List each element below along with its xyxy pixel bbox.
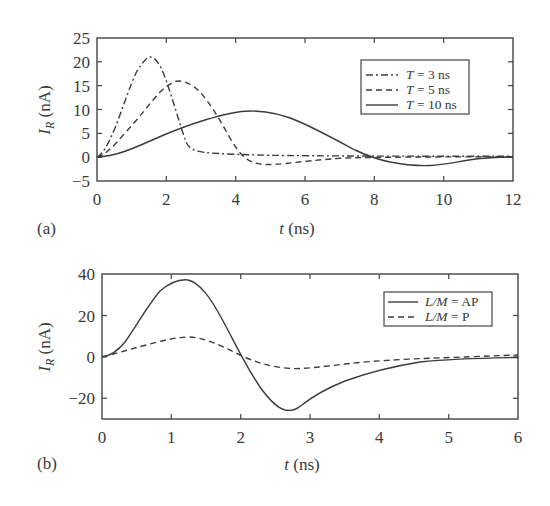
- panel-b: 40 20 0 −20 0 1 2 3 4 5 6 t (ns) IR (nA)…: [35, 265, 522, 474]
- y-axis-label-b: IR (nA): [35, 322, 57, 372]
- legend-b: L/M = AP L/M = P: [384, 292, 492, 326]
- x-tick-label: 4: [375, 428, 384, 447]
- legend-entry: T = 10 ns: [406, 97, 457, 112]
- y-tick-labels-b: 40 20 0 −20: [68, 265, 95, 408]
- x-tick-label: 2: [162, 190, 171, 209]
- legend-entry: L/M = AP: [424, 294, 478, 309]
- y-axis-label-a: IR (nA): [35, 85, 57, 135]
- x-tick-label: 5: [444, 428, 453, 447]
- x-tick-label: 3: [306, 428, 315, 447]
- figure: 25 20 15 10 5 0 −5 0 2 4 6 8 10 12 t (ns…: [0, 0, 550, 506]
- x-tick-label: 12: [505, 190, 522, 209]
- y-tick-label: 40: [78, 265, 95, 284]
- x-tick-label: 6: [514, 428, 523, 447]
- panel-a: 25 20 15 10 5 0 −5 0 2 4 6 8 10 12 t (ns…: [35, 29, 522, 238]
- y-tick-label: 5: [82, 124, 91, 143]
- y-tick-label: 10: [73, 101, 90, 120]
- x-axis-label-b: t (ns): [284, 455, 319, 474]
- series-p: [102, 337, 518, 369]
- x-tick-label: 0: [93, 190, 102, 209]
- y-tick-label: 0: [87, 348, 96, 367]
- legend-entry: T = 5 ns: [406, 82, 450, 97]
- panel-label-b: (b): [37, 454, 57, 473]
- y-tick-label: −5: [72, 172, 90, 191]
- y-tick-label: 25: [73, 29, 90, 48]
- panel-label-a: (a): [37, 219, 56, 238]
- x-tick-label: 6: [301, 190, 310, 209]
- x-axis-label-a: t (ns): [279, 219, 314, 238]
- x-tick-labels-b: 0 1 2 3 4 5 6: [98, 428, 523, 447]
- x-tick-label: 8: [370, 190, 379, 209]
- x-tick-label: 0: [98, 428, 107, 447]
- x-tick-label: 2: [236, 428, 245, 447]
- y-tick-label: −20: [68, 389, 95, 408]
- y-tick-label: 15: [73, 77, 90, 96]
- y-tick-label: 0: [82, 148, 91, 167]
- y-tick-label: 20: [78, 307, 95, 326]
- y-tick-labels-a: 25 20 15 10 5 0 −5: [72, 29, 90, 191]
- x-tick-labels-a: 0 2 4 6 8 10 12: [93, 190, 522, 209]
- x-tick-label: 10: [435, 190, 452, 209]
- y-tick-label: 20: [73, 53, 90, 72]
- x-tick-label: 1: [167, 428, 176, 447]
- legend-entry: T = 3 ns: [406, 67, 450, 82]
- legend-entry: L/M = P: [424, 309, 469, 324]
- x-tick-label: 4: [231, 190, 240, 209]
- legend-a: T = 3 ns T = 5 ns T = 10 ns: [361, 60, 469, 114]
